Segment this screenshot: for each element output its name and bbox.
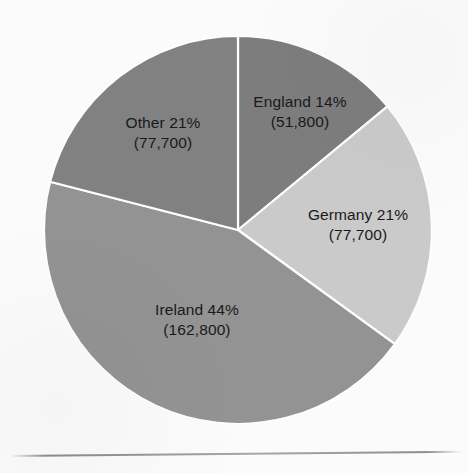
pie-chart-svg — [0, 0, 468, 473]
pie-chart-figure: England 14% (51,800) Germany 21% (77,700… — [0, 0, 468, 473]
pie-slices — [44, 36, 432, 424]
